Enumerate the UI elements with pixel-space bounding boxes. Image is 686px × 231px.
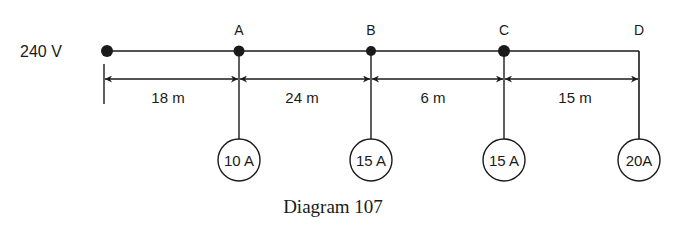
- load-c-value: 15 A: [489, 152, 519, 169]
- tap-lines: [239, 51, 504, 139]
- junction-b-icon: [366, 46, 376, 56]
- node-label-d: D: [634, 22, 644, 38]
- node-label-a: A: [234, 22, 244, 38]
- distance-a-b: 24 m: [285, 89, 318, 106]
- distance-c-d: 15 m: [558, 89, 591, 106]
- load-b-value: 15 A: [356, 152, 386, 169]
- load-d-value: 20A: [626, 152, 653, 169]
- distance-source-a: 18 m: [151, 89, 184, 106]
- load-a-value: 10 A: [224, 152, 254, 169]
- junction-c-icon: [498, 45, 510, 57]
- diagram-caption: Diagram 107: [283, 196, 383, 217]
- supply-node-icon: [101, 45, 113, 57]
- junction-a-icon: [234, 46, 245, 57]
- supply-voltage-label: 240 V: [20, 43, 62, 60]
- distributor-diagram: 240 V A B C D 18 m 24 m 6 m 15 m 10 A 15: [0, 0, 686, 231]
- distance-b-c: 6 m: [420, 89, 445, 106]
- node-label-c: C: [499, 22, 509, 38]
- node-label-b: B: [366, 22, 375, 38]
